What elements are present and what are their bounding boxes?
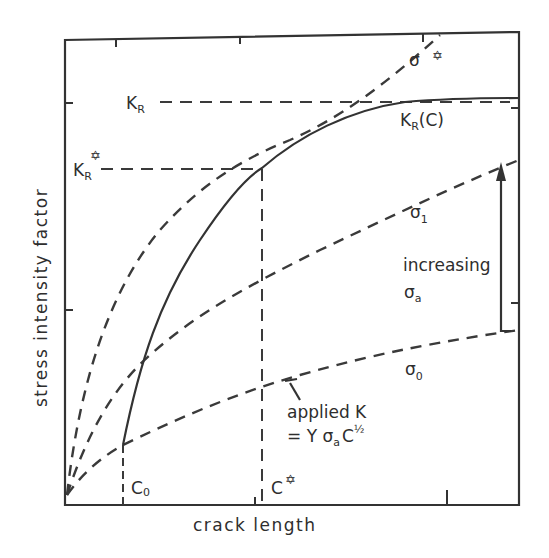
applied-k-label-line1: applied K xyxy=(287,402,367,422)
sigma-star-label: σ xyxy=(409,50,420,70)
x-axis-label: crack length xyxy=(193,515,317,535)
kr-c-label: KR(C) xyxy=(400,110,444,133)
sigma0-label: σ0 xyxy=(405,359,423,383)
c0-label: C0 xyxy=(131,478,150,499)
c-star-icon: ✡ xyxy=(285,472,296,487)
increasing-label: increasing xyxy=(403,255,490,275)
applied-k-label-line2: = Y σaC½ xyxy=(287,423,365,449)
y-axis-label: stress intensity factor xyxy=(31,188,51,407)
sigma-a-label: σa xyxy=(404,282,422,305)
r-curve-diagram: KR KR ✡ KR(C) σ ✡ σ1 increasing σa σ0 ap… xyxy=(0,0,549,558)
c-star-label: C xyxy=(271,478,283,498)
sigma1-label: σ1 xyxy=(410,202,428,226)
kr-star-icon: ✡ xyxy=(90,148,101,163)
kr-label: KR xyxy=(126,93,145,116)
kr-star-label: KR xyxy=(73,160,92,183)
increasing-stress-arrow xyxy=(496,162,511,331)
sigma-star-icon: ✡ xyxy=(432,48,443,63)
sigma-star-curve xyxy=(67,35,440,495)
applied-k-pointer xyxy=(290,383,300,400)
